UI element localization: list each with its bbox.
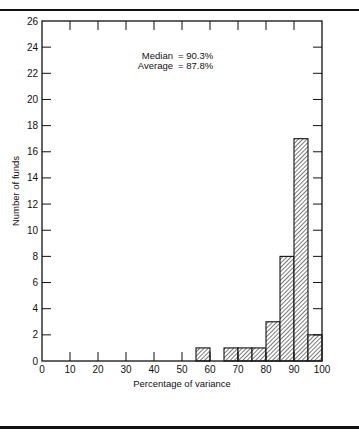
y-tick-label: 10 <box>27 225 39 236</box>
histogram-bars <box>196 139 322 361</box>
histogram-bar <box>266 322 280 361</box>
x-tick-label: 0 <box>39 364 45 375</box>
y-tick-label: 26 <box>27 16 39 27</box>
annotation-value: = 87.8% <box>178 60 214 71</box>
x-tick-label: 80 <box>260 364 272 375</box>
x-axis-label: Percentage of variance <box>133 378 231 389</box>
y-axis-label: Number of funds <box>10 156 21 226</box>
x-tick-label: 50 <box>176 364 188 375</box>
y-tick-label: 20 <box>27 94 39 105</box>
x-tick-label: 10 <box>64 364 76 375</box>
y-tick-label: 6 <box>32 277 38 288</box>
y-tick-label: 24 <box>27 42 39 53</box>
y-tick-label: 12 <box>27 199 39 210</box>
histogram-bar <box>294 139 308 361</box>
y-tick-label: 8 <box>32 251 38 262</box>
x-tick-label: 30 <box>120 364 132 375</box>
x-tick-label: 90 <box>288 364 300 375</box>
statistics-annotation: Median= 90.3%Average= 87.8% <box>138 50 214 71</box>
y-tick-label: 22 <box>27 68 39 79</box>
histogram-bar <box>280 256 294 361</box>
annotation-label: Average <box>138 60 173 71</box>
x-tick-label: 40 <box>148 364 160 375</box>
histogram-bar <box>308 335 322 361</box>
x-tick-label: 60 <box>204 364 216 375</box>
x-tick-label: 70 <box>232 364 244 375</box>
y-tick-label: 16 <box>27 146 39 157</box>
y-tick-label: 14 <box>27 172 39 183</box>
y-tick-label: 18 <box>27 120 39 131</box>
x-tick-label: 100 <box>314 364 331 375</box>
y-tick-label: 0 <box>32 356 38 367</box>
y-tick-label: 4 <box>32 303 38 314</box>
histogram-chart: 02468101214161820222426 0102030405060708… <box>0 0 359 434</box>
x-tick-label: 20 <box>92 364 104 375</box>
y-tick-label: 2 <box>32 329 38 340</box>
histogram-bar <box>196 348 210 361</box>
histogram-bar <box>238 348 252 361</box>
histogram-bar <box>252 348 266 361</box>
histogram-bar <box>224 348 238 361</box>
y-axis-ticks: 02468101214161820222426 <box>27 16 322 367</box>
